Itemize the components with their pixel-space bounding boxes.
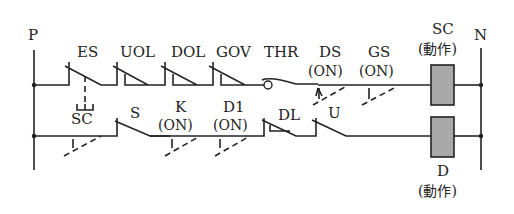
- label-coil-sc-state: (動作): [418, 41, 457, 57]
- label-coil-d-state: (動作): [418, 183, 457, 199]
- label-gov: GOV: [216, 43, 252, 61]
- label-d1: D1: [223, 98, 245, 116]
- es-contact: [34, 62, 117, 85]
- label-u: U: [328, 104, 341, 122]
- label-ds: DS: [319, 43, 341, 61]
- label-dl: DL: [278, 106, 300, 124]
- k-actuator: [165, 136, 200, 156]
- label-uol: UOL: [120, 43, 155, 61]
- thr-pivot: [264, 81, 272, 89]
- label-gs-state: (ON): [359, 63, 394, 79]
- u-contact: [312, 120, 431, 136]
- rail-label-p: P: [28, 26, 38, 44]
- rail-label-n: N: [474, 26, 487, 44]
- gov-contact: [209, 66, 264, 85]
- coil-sc: [431, 65, 454, 105]
- uol-contact: [113, 62, 165, 85]
- label-d1-state: (ON): [213, 117, 248, 133]
- upper-rung: ES UOL DOL GOV THR DS (ON) GS (ON) SC (動…: [34, 20, 481, 105]
- label-s: S: [130, 104, 140, 122]
- label-es: ES: [77, 43, 98, 61]
- dol-contact: [161, 62, 213, 85]
- label-k: K: [175, 98, 187, 116]
- label-coil-sc: SC: [432, 20, 454, 38]
- label-coil-d: D: [437, 162, 449, 180]
- ladder-diagram: P N ES UOL DOL GOV THR DS (ON) GS: [0, 0, 514, 214]
- label-gs: GS: [368, 43, 390, 61]
- label-dol: DOL: [171, 43, 205, 61]
- coil-d: [431, 117, 454, 157]
- label-thr: THR: [264, 43, 299, 61]
- sc-actuator: [64, 136, 101, 156]
- gs-actuator: [362, 87, 396, 105]
- lower-rung: SC S K (ON) D1 (ON) DL U D (動作): [34, 98, 481, 199]
- label-sc: SC: [71, 110, 93, 128]
- label-k-state: (ON): [158, 117, 193, 133]
- label-ds-state: (ON): [308, 63, 343, 79]
